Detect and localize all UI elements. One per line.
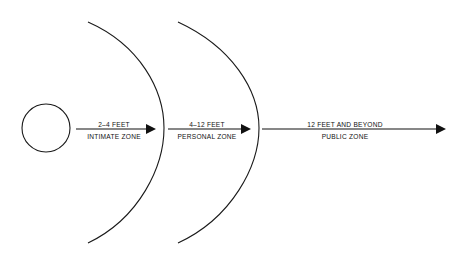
proxemic-zones-diagram: 2–4 FEET INTIMATE ZONE 4–12 FEET PERSONA… [0, 0, 460, 259]
public-zone-distance-label: 12 FEET AND BEYOND [307, 121, 382, 128]
public-zone-name-label: PUBLIC ZONE [322, 133, 369, 140]
personal-zone-name-label: PERSONAL ZONE [177, 133, 236, 140]
personal-zone-arrow-head-icon [241, 124, 251, 134]
intimate-zone-name-label: INTIMATE ZONE [87, 133, 141, 140]
person-circle [22, 104, 70, 152]
public-zone-arrow-group: 12 FEET AND BEYOND PUBLIC ZONE [262, 121, 446, 140]
public-zone-arrow-head-icon [436, 124, 446, 134]
intimate-zone-distance-label: 2–4 FEET [98, 121, 130, 128]
intimate-zone-arrow-group: 2–4 FEET INTIMATE ZONE [76, 121, 156, 140]
diagram-svg-canvas: 2–4 FEET INTIMATE ZONE 4–12 FEET PERSONA… [0, 0, 460, 259]
personal-zone-arrow-group: 4–12 FEET PERSONAL ZONE [168, 121, 251, 140]
personal-zone-distance-label: 4–12 FEET [189, 121, 225, 128]
intimate-zone-arrow-head-icon [146, 124, 156, 134]
